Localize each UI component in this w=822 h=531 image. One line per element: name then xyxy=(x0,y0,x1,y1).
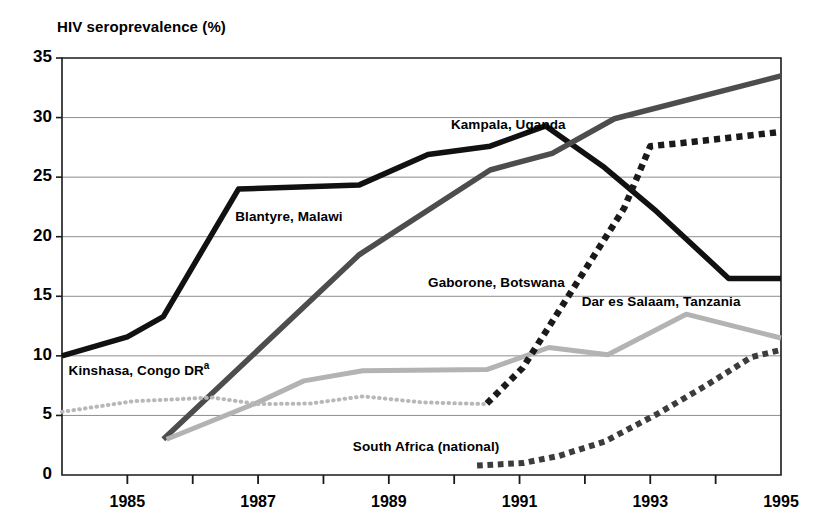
series-line-3 xyxy=(62,396,487,411)
series-annotation-5: South Africa (national) xyxy=(353,439,500,454)
y-axis-label: 25 xyxy=(10,166,52,186)
chart-root: HIV seroprevalence (%) 05101520253035198… xyxy=(0,0,822,531)
series-annotation-1: Blantyre, Malawi xyxy=(235,209,342,224)
y-axis-label: 0 xyxy=(10,464,52,484)
x-axis-label: 1987 xyxy=(218,493,298,511)
x-axis-label: 1993 xyxy=(610,493,690,511)
y-axis-label: 30 xyxy=(10,107,52,127)
y-axis-label: 35 xyxy=(10,47,52,67)
y-axis-label: 20 xyxy=(10,226,52,246)
plot-frame xyxy=(62,58,781,475)
x-axis-label: 1991 xyxy=(480,493,560,511)
series-annotation-3: Kinshasa, Congo DRa xyxy=(69,360,210,378)
x-axis-label: 1985 xyxy=(87,493,167,511)
y-axis-label: 5 xyxy=(10,404,52,424)
x-axis-label: 1989 xyxy=(349,493,429,511)
series-line-2 xyxy=(167,314,781,439)
series-annotation-4: Gaborone, Botswana xyxy=(428,275,565,290)
series-annotation-0: Kampala, Uganda xyxy=(451,117,566,132)
y-axis-label: 15 xyxy=(10,285,52,305)
y-axis-label: 10 xyxy=(10,345,52,365)
series-annotation-2: Dar es Salaam, Tanzania xyxy=(582,294,741,309)
x-axis-label: 1995 xyxy=(741,493,821,511)
